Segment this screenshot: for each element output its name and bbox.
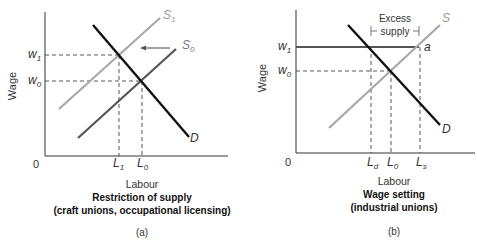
s1-label: S1 (163, 8, 175, 24)
supply-annotation-label: supply (381, 26, 410, 37)
panel-b-label: (b) (388, 226, 400, 237)
panel-a-title: Restriction of supply (92, 192, 192, 203)
origin-label: 0 (33, 158, 39, 170)
point-a-label: a (424, 40, 431, 54)
w1-label: w1 (28, 47, 41, 63)
y-axis-label: Wage (6, 72, 18, 100)
s0-label: S0 (182, 38, 195, 54)
L1-label: L1 (113, 156, 124, 172)
panel-a-label: (a) (136, 227, 148, 238)
w0-label: w0 (28, 73, 42, 89)
x-axis-label: Labour (378, 175, 411, 187)
panel-b-title: Wage setting (363, 189, 425, 200)
d-label: D (442, 122, 451, 136)
Ld-label: Ld (367, 155, 379, 171)
w0-label: w0 (278, 63, 292, 79)
panel-b-subtitle: (industrial unions) (350, 202, 437, 213)
panel-a: S1 S0 D w1 w0 Wage 0 L1 L0 Labour Restri… (6, 8, 231, 238)
panel-b: Excess supply S D a w1 w0 Wage 0 Ld L0 L… (256, 10, 475, 237)
y-axis-label: Wage (256, 64, 268, 92)
Ls-label: Ls (416, 155, 427, 171)
supply-curve-s1 (59, 18, 160, 109)
d-label: D (190, 131, 199, 145)
panel-a-subtitle: (craft unions, occupational licensing) (53, 205, 230, 216)
demand-curve (93, 25, 189, 137)
s-label: S (442, 11, 450, 25)
labour-market-diagram: S1 S0 D w1 w0 Wage 0 L1 L0 Labour Restri… (0, 0, 477, 244)
origin-label: 0 (285, 156, 291, 168)
L0-label: L0 (387, 155, 399, 171)
x-axis-label: Labour (126, 178, 159, 190)
excess-label: Excess (379, 13, 411, 24)
w1-label: w1 (278, 39, 291, 55)
arrow-left-icon (140, 46, 146, 51)
L0-label: L0 (137, 156, 149, 172)
supply-curve-s0 (78, 49, 176, 138)
